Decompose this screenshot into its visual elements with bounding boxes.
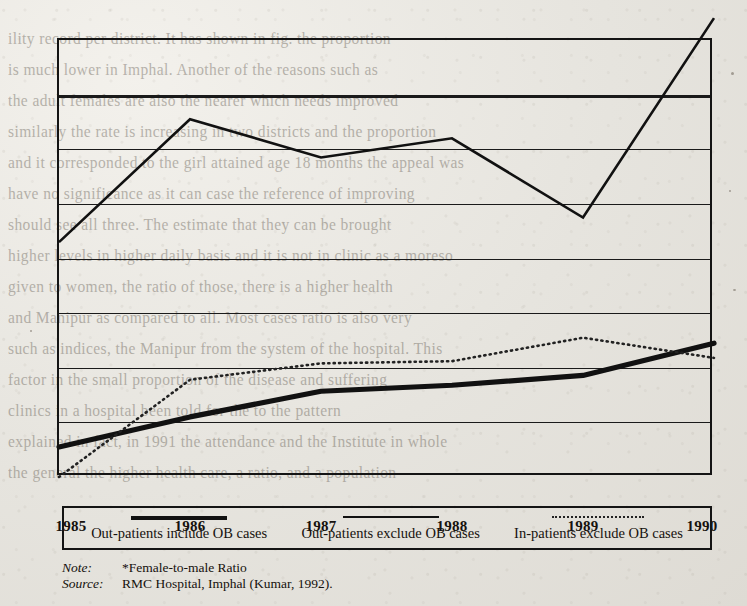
series-lines-group (59, 40, 714, 477)
source-label: Source: (62, 576, 122, 592)
chart-legend: Out-patients include OB cases Out-patien… (62, 506, 712, 550)
legend-item-out-patients-include-ob: Out-patients include OB cases (91, 516, 267, 542)
chart-footnotes: Note: *Female-to-male Ratio Source: RMC … (62, 560, 562, 592)
note-row: Note: *Female-to-male Ratio (62, 560, 562, 576)
chart-plot-area: 0.60.70.80.911.11.21.3*1.4 1985198619871… (57, 38, 712, 475)
scan-speck (729, 190, 731, 192)
scan-speck (733, 289, 736, 291)
note-value: *Female-to-male Ratio (122, 560, 247, 576)
legend-label-out-patients-include-ob: Out-patients include OB cases (91, 525, 267, 542)
scan-speck (731, 72, 734, 75)
thick-line-swatch-icon (131, 516, 227, 520)
legend-label-out-patients-exclude-ob: Out-patients exclude OB cases (301, 525, 479, 542)
legend-item-out-patients-exclude-ob: Out-patients exclude OB cases (301, 516, 479, 542)
note-label: Note: (62, 560, 122, 576)
dotted-line-swatch-icon (552, 516, 644, 518)
legend-label-in-patients-exclude-ob: In-patients exclude OB cases (514, 525, 683, 542)
scan-speck (30, 330, 32, 332)
legend-item-in-patients-exclude-ob: In-patients exclude OB cases (514, 516, 683, 542)
series-line-out-patients-exclude-ob (59, 343, 714, 447)
series-line-in-patients-exclude-ob (59, 338, 714, 477)
series-line-out-patients-include-ob (59, 18, 714, 242)
source-row: Source: RMC Hospital, Imphal (Kumar, 199… (62, 576, 562, 592)
source-value: RMC Hospital, Imphal (Kumar, 1992). (122, 576, 333, 592)
thin-line-swatch-icon (343, 516, 439, 518)
